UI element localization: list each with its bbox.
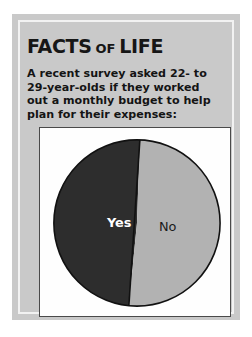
card-panel: FACTSOFLIFE A recent survey asked 22- to… <box>12 14 240 320</box>
card-content: FACTSOFLIFE A recent survey asked 22- to… <box>27 26 225 121</box>
pie-slices <box>54 140 220 306</box>
pie-label-yes: Yes <box>106 215 132 230</box>
title-word-of: OF <box>96 41 116 56</box>
page-title: FACTSOFLIFE <box>27 26 225 58</box>
title-word-facts: FACTS <box>27 35 92 57</box>
survey-description: A recent survey asked 22- to 29-year-old… <box>27 67 211 121</box>
pie-label-no: No <box>159 219 177 234</box>
pie-chart: Yes No <box>40 128 230 316</box>
title-word-life: LIFE <box>119 35 163 57</box>
pie-chart-container: Yes No <box>39 127 231 317</box>
